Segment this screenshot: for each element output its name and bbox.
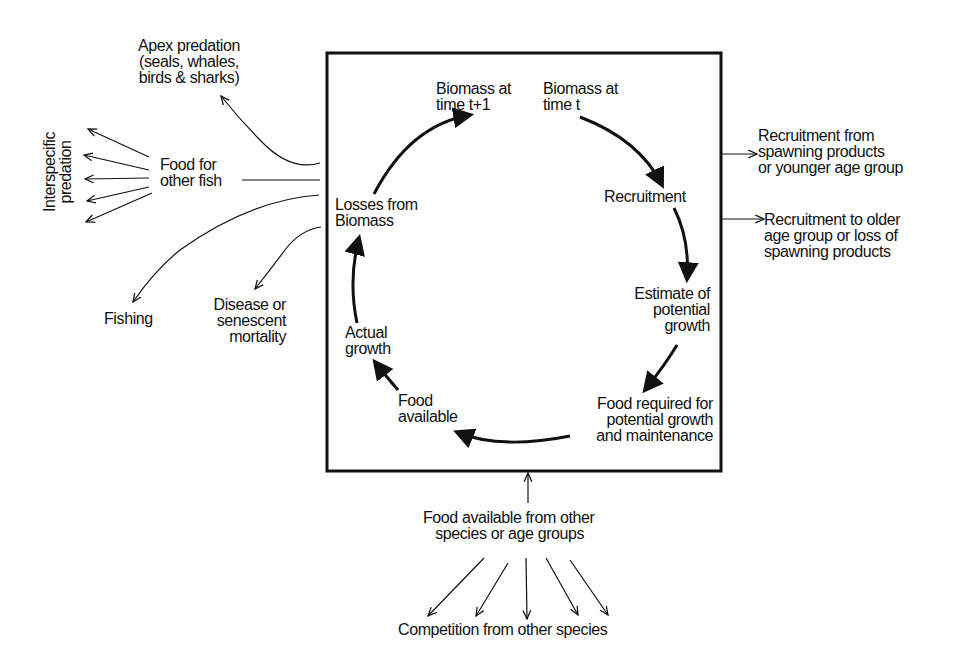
label-food-other-species: Food available from other species or age…: [423, 510, 594, 542]
arrow-competition-1: [428, 558, 484, 616]
label-disease-mortality: Disease or senescent mortality: [196, 297, 286, 345]
arrow-recruitment-to-estimate: [674, 208, 687, 279]
arrow-actual-to-losses: [353, 238, 359, 323]
node-food-required: Food required for potential growth and m…: [570, 396, 713, 444]
arrow-predation-3: [85, 178, 149, 179]
label-fishing: Fishing: [104, 311, 153, 327]
arrow-competition-2: [476, 563, 508, 616]
arrow-predation-2: [84, 155, 149, 170]
node-recruitment: Recruitment: [604, 189, 686, 205]
arrow-biomass-to-recruitment: [580, 117, 662, 185]
arrow-competition-4: [546, 558, 578, 615]
arrow-foodavail-to-actual: [375, 362, 398, 390]
arrow-to-apex: [221, 96, 320, 165]
arrow-predation-5: [86, 193, 152, 222]
bottom-flow-arrows: [428, 473, 608, 619]
node-losses-from-biomass: Losses from Biomass: [335, 197, 418, 229]
arrow-competition-3: [526, 558, 527, 619]
label-competition: Competition from other species: [398, 622, 607, 638]
label-recruitment-in: Recruitment from spawning products or yo…: [758, 128, 903, 176]
node-biomass-t: Biomass at time t: [543, 81, 618, 113]
label-food-for-other-fish: Food for other fish: [160, 157, 222, 189]
arrow-predation-1: [88, 129, 149, 157]
label-apex-predation: Apex predation (seals, whales, birds & s…: [124, 38, 254, 86]
node-estimate-growth: Estimate of potential growth: [620, 286, 710, 334]
arrow-to-fishing: [133, 195, 319, 302]
label-recruitment-out: Recruitment to older age group or loss o…: [764, 212, 900, 260]
arrow-losses-to-biomass1: [374, 115, 470, 194]
arrow-estimate-to-foodreq: [645, 345, 677, 390]
left-output-arrows: [84, 96, 321, 302]
label-interspecific-predation: Interspecific predation: [42, 122, 74, 222]
arrow-foodreq-to-foodavail: [457, 432, 570, 442]
arrow-competition-5: [570, 560, 608, 615]
arrow-to-disease: [255, 227, 321, 289]
node-food-available: Food available: [398, 393, 458, 425]
node-biomass-t1: Biomass at time t+1: [436, 81, 511, 113]
node-actual-growth: Actual growth: [345, 325, 391, 357]
